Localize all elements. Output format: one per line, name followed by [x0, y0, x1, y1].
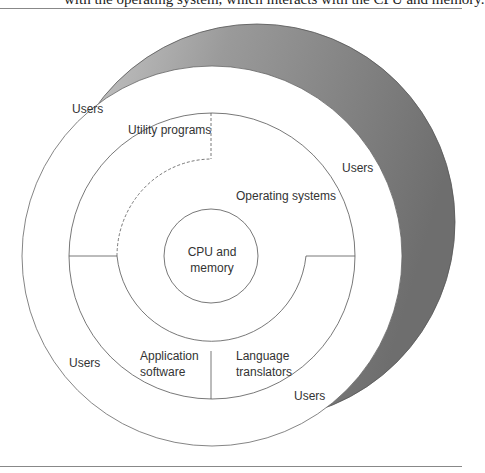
label-utility-programs: Utility programs — [128, 122, 211, 138]
label-operating-systems: Operating systems — [236, 188, 336, 204]
bottom-rule — [0, 466, 462, 467]
label-language-translators: Language translators — [236, 348, 292, 380]
label-users-bottom-left: Users — [69, 355, 100, 371]
label-cpu-memory: CPU and memory — [186, 244, 238, 276]
label-users-bottom-right: Users — [294, 388, 325, 404]
label-users-right: Users — [342, 160, 373, 176]
label-application-software: Application software — [140, 348, 199, 380]
label-users-top-left: Users — [72, 101, 103, 117]
